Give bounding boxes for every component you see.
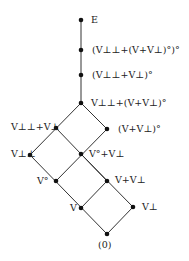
node-label-n8: V°: [37, 176, 49, 186]
node-label-n4: V⊥⊥+V⊥: [11, 122, 59, 132]
node-label-n7: V°+V⊥: [89, 149, 124, 159]
node-label-n12: (0): [98, 240, 111, 250]
node-label-n6: V⊥⊥: [11, 149, 36, 159]
node-label-n9: V+V⊥: [115, 175, 146, 185]
node-label-n5: (V+V⊥)°: [118, 124, 161, 134]
node-label-n10: V: [70, 203, 77, 213]
node-label-n2: (V⊥⊥+V⊥)°: [92, 70, 153, 80]
node-label-n1: (V⊥⊥+(V+V⊥)°)°: [92, 45, 180, 55]
node-label-e: E: [91, 15, 98, 25]
node-label-n3: V⊥⊥+(V+V⊥)°: [91, 98, 166, 108]
node-label-n11: V⊥: [142, 202, 158, 212]
